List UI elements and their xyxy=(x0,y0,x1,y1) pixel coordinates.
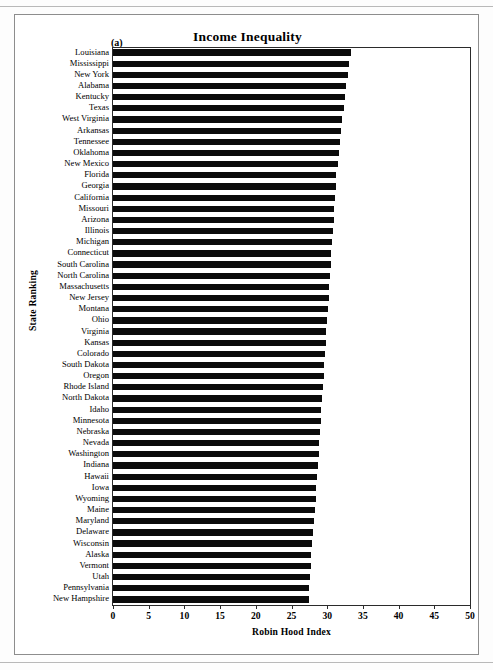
bar-row: Nebraska xyxy=(113,426,470,437)
bar-row: New Hampshire xyxy=(113,594,470,605)
x-axis-tick-label: 45 xyxy=(430,610,440,621)
bar-row: Washington xyxy=(113,449,470,460)
y-axis-tick-label: Alaska xyxy=(85,549,109,560)
bar-row: North Dakota xyxy=(113,393,470,404)
bar-row: Michigan xyxy=(113,237,470,248)
bar-row: Florida xyxy=(113,170,470,181)
y-axis-tick-label: Wisconsin xyxy=(73,538,109,549)
y-axis-title: State Ranking xyxy=(27,270,38,331)
bar xyxy=(113,407,321,413)
bar-row: Maine xyxy=(113,505,470,516)
bar xyxy=(113,206,334,212)
bar-row: Arizona xyxy=(113,214,470,225)
x-axis-tick xyxy=(434,605,435,609)
bar xyxy=(113,563,311,569)
bar xyxy=(113,49,351,55)
bar xyxy=(113,261,331,267)
bar-row: Louisiana xyxy=(113,47,470,58)
x-axis-tick xyxy=(256,605,257,609)
y-axis-tick-label: Nebraska xyxy=(77,426,109,437)
y-axis-tick-label: Ohio xyxy=(92,314,109,325)
bar-row: Arkansas xyxy=(113,125,470,136)
y-axis-tick-label: Texas xyxy=(89,102,109,113)
y-axis-tick-label: Kansas xyxy=(84,337,109,348)
y-axis-tick-label: Massachusetts xyxy=(59,281,109,292)
y-axis-tick-label: West Virginia xyxy=(62,113,109,124)
x-axis-tick-label: 25 xyxy=(287,610,297,621)
bar-row: Virginia xyxy=(113,326,470,337)
bar-row: Kentucky xyxy=(113,92,470,103)
x-axis-tick xyxy=(220,605,221,609)
chart-title: Income Inequality xyxy=(15,29,480,45)
bar xyxy=(113,273,330,279)
bar-row: Ohio xyxy=(113,315,470,326)
bar xyxy=(113,585,309,591)
bar-row: Kansas xyxy=(113,337,470,348)
bar xyxy=(113,507,315,513)
bar-row: Iowa xyxy=(113,482,470,493)
y-axis-tick-label: Delaware xyxy=(76,526,109,537)
bar-row: Oregon xyxy=(113,371,470,382)
y-axis-tick-label: New Mexico xyxy=(64,158,109,169)
bar-row: Missouri xyxy=(113,203,470,214)
x-axis-tick-label: 35 xyxy=(358,610,368,621)
y-axis-tick-label: Virginia xyxy=(81,326,109,337)
y-axis-tick-label: Nevada xyxy=(83,437,109,448)
y-axis-tick-label: Tennessee xyxy=(74,136,109,147)
x-axis-tick-label: 15 xyxy=(215,610,225,621)
bar-row: Hawaii xyxy=(113,471,470,482)
y-axis-tick-label: Washington xyxy=(68,448,109,459)
x-axis-tick-label: 40 xyxy=(394,610,404,621)
bar xyxy=(113,518,314,524)
y-axis-tick-label: Mississippi xyxy=(70,58,109,69)
bar xyxy=(113,317,327,323)
y-axis-tick-label: Arkansas xyxy=(77,125,109,136)
bar xyxy=(113,116,342,122)
bar xyxy=(113,340,326,346)
bar-row: South Carolina xyxy=(113,259,470,270)
bar-row: Montana xyxy=(113,304,470,315)
y-axis-tick-label: Michigan xyxy=(76,236,109,247)
bar xyxy=(113,384,323,390)
bar xyxy=(113,373,324,379)
bar-row: Alaska xyxy=(113,549,470,560)
bar-row: Vermont xyxy=(113,560,470,571)
bar xyxy=(113,295,329,301)
bar xyxy=(113,462,318,468)
bar xyxy=(113,284,329,290)
x-axis-tick-label: 20 xyxy=(251,610,261,621)
page-bottom-rule xyxy=(0,662,493,663)
bar-row: New York xyxy=(113,69,470,80)
bar-row: North Carolina xyxy=(113,270,470,281)
y-axis-tick-label: North Carolina xyxy=(57,270,109,281)
bar xyxy=(113,150,339,156)
x-axis-tick xyxy=(184,605,185,609)
bar xyxy=(113,362,324,368)
bar xyxy=(113,250,331,256)
bar xyxy=(113,172,336,178)
page-top-rule xyxy=(0,6,493,7)
bar-row: Nevada xyxy=(113,438,470,449)
x-axis-tick xyxy=(292,605,293,609)
scanned-page: Income Inequality (a) State Ranking Loui… xyxy=(0,0,493,670)
bar-row: Texas xyxy=(113,103,470,114)
bar-row: California xyxy=(113,192,470,203)
bar-row: Oklahoma xyxy=(113,147,470,158)
bar-row: Rhode Island xyxy=(113,382,470,393)
bar xyxy=(113,161,338,167)
bar xyxy=(113,395,322,401)
bar-row: Wisconsin xyxy=(113,538,470,549)
bar-row: Idaho xyxy=(113,404,470,415)
bar xyxy=(113,217,334,223)
x-axis-tick-label: 0 xyxy=(111,610,116,621)
y-axis-tick-label: Iowa xyxy=(92,482,109,493)
y-axis-tick-label: Kentucky xyxy=(76,91,109,102)
bar-row: Delaware xyxy=(113,527,470,538)
y-axis-tick-label: New Jersey xyxy=(69,292,109,303)
bar xyxy=(113,574,310,580)
y-axis-tick-label: Maryland xyxy=(76,515,109,526)
y-axis-tick-label: Missouri xyxy=(78,203,109,214)
y-axis-tick-label: Pennsylvania xyxy=(63,582,109,593)
plot-area: LouisianaMississippiNew YorkAlabamaKentu… xyxy=(112,47,471,606)
bar-row: New Mexico xyxy=(113,159,470,170)
